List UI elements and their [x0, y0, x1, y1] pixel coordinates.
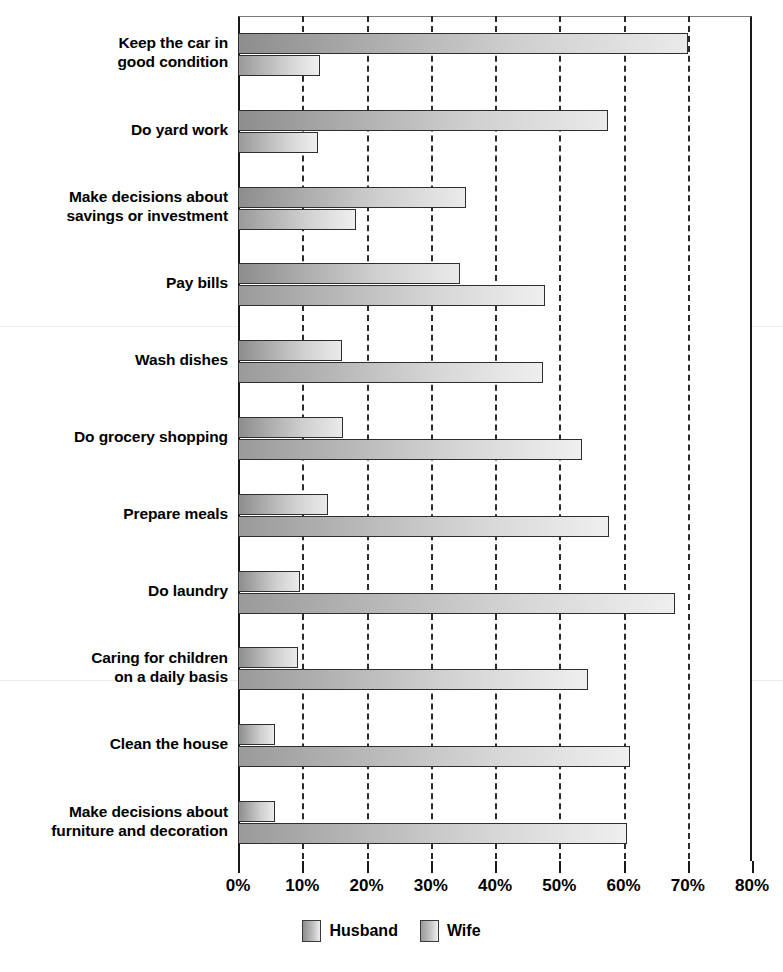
chart-legend: Husband Wife — [0, 920, 783, 942]
category-label-line: Caring for children — [4, 648, 228, 667]
category-label-line: Do grocery shopping — [4, 427, 228, 446]
category-label: Make decisions aboutsavings or investmen… — [4, 187, 228, 225]
bar-husband — [238, 340, 342, 361]
category-label: Wash dishes — [4, 350, 228, 369]
category-label: Caring for childrenon a daily basis — [4, 648, 228, 686]
bar-group — [238, 477, 752, 554]
bar-group — [238, 246, 752, 323]
bar-rows — [238, 16, 752, 861]
category-label: Make decisions aboutfurniture and decora… — [4, 802, 228, 840]
category-label: Prepare meals — [4, 504, 228, 523]
bar-group — [238, 707, 752, 784]
bar-wife — [238, 439, 582, 460]
x-axis — [238, 861, 752, 873]
bar-wife — [238, 362, 543, 383]
bar-husband — [238, 417, 343, 438]
category-label: Keep the car ingood condition — [4, 33, 228, 71]
husband-swatch-icon — [302, 920, 321, 942]
x-tick-0pct — [238, 861, 240, 873]
bar-group — [238, 631, 752, 708]
x-tick-label-80pct: 80% — [702, 876, 783, 896]
category-label-line: Do laundry — [4, 581, 228, 600]
bar-group — [238, 16, 752, 93]
bar-husband — [238, 263, 460, 284]
category-label: Clean the house — [4, 734, 228, 753]
x-tick-20pct — [367, 861, 369, 873]
bar-wife — [238, 209, 356, 230]
category-label: Do grocery shopping — [4, 427, 228, 446]
bar-husband — [238, 647, 298, 668]
bar-wife — [238, 823, 627, 844]
x-axis-tick-labels: 0%10%20%30%40%50%60%70%80% — [188, 876, 783, 902]
legend-label-husband: Husband — [329, 922, 397, 940]
bar-wife — [238, 516, 609, 537]
category-label-line: Wash dishes — [4, 350, 228, 369]
bar-wife — [238, 55, 320, 76]
bar-wife — [238, 746, 630, 767]
x-tick-10pct — [302, 861, 304, 873]
bar-husband — [238, 33, 688, 54]
x-tick-70pct — [688, 861, 690, 873]
bar-group — [238, 323, 752, 400]
bar-husband — [238, 494, 328, 515]
category-label-line: Keep the car in — [4, 33, 228, 52]
category-label-line: on a daily basis — [4, 667, 228, 686]
category-label-line: Prepare meals — [4, 504, 228, 523]
category-label: Pay bills — [4, 273, 228, 292]
category-label-line: good condition — [4, 52, 228, 71]
category-label-line: Make decisions about — [4, 187, 228, 206]
legend-item-husband: Husband — [302, 920, 397, 942]
category-label-line: savings or investment — [4, 206, 228, 225]
bar-group — [238, 170, 752, 247]
bar-group — [238, 554, 752, 631]
x-tick-60pct — [624, 861, 626, 873]
bar-wife — [238, 285, 545, 306]
bar-husband — [238, 801, 275, 822]
wife-swatch-icon — [420, 920, 439, 942]
bar-husband — [238, 724, 275, 745]
category-label-line: Do yard work — [4, 120, 228, 139]
bar-husband — [238, 571, 300, 592]
bar-wife — [238, 593, 675, 614]
category-labels: Keep the car ingood conditionDo yard wor… — [0, 16, 228, 861]
bar-husband — [238, 187, 466, 208]
category-label-line: Pay bills — [4, 273, 228, 292]
category-label: Do yard work — [4, 120, 228, 139]
horizontal-bar-chart: Keep the car ingood conditionDo yard wor… — [0, 0, 783, 972]
x-tick-40pct — [495, 861, 497, 873]
x-tick-80pct — [752, 861, 754, 873]
bar-wife — [238, 132, 318, 153]
bar-husband — [238, 110, 608, 131]
category-label-line: Clean the house — [4, 734, 228, 753]
bar-group — [238, 784, 752, 861]
x-tick-30pct — [431, 861, 433, 873]
category-label: Do laundry — [4, 581, 228, 600]
bar-group — [238, 93, 752, 170]
legend-label-wife: Wife — [447, 922, 481, 940]
legend-item-wife: Wife — [420, 920, 481, 942]
bar-wife — [238, 669, 588, 690]
bar-group — [238, 400, 752, 477]
category-label-line: furniture and decoration — [4, 821, 228, 840]
x-tick-50pct — [559, 861, 561, 873]
category-label-line: Make decisions about — [4, 802, 228, 821]
